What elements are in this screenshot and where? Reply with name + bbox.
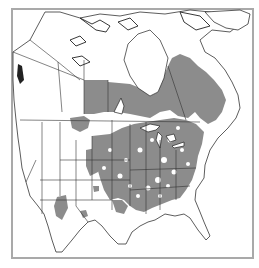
range-colorado [93,186,99,192]
north-america-range-map [0,0,259,268]
